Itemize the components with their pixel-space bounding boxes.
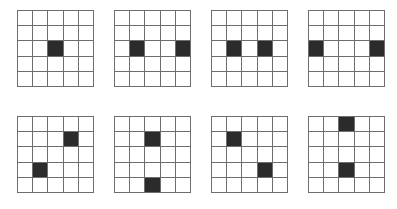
grid-cell-empty — [339, 11, 354, 26]
grid-cell-empty — [242, 72, 257, 87]
grid-2 — [114, 10, 191, 87]
grid-cell-empty — [161, 117, 176, 132]
grid-cell-empty — [212, 57, 227, 72]
grid-cell-empty — [212, 163, 227, 178]
grid-cell-empty — [145, 57, 160, 72]
grid-cell-empty — [309, 178, 324, 193]
grid-cell-empty — [33, 117, 48, 132]
grid-cell-empty — [130, 57, 145, 72]
grid-cell-filled — [64, 132, 79, 147]
grid-cell-empty — [161, 11, 176, 26]
grid-cell-empty — [309, 57, 324, 72]
grid-cell-empty — [273, 163, 288, 178]
grid-cell-empty — [273, 41, 288, 56]
grid-cell-empty — [273, 178, 288, 193]
grid-cell-empty — [48, 117, 63, 132]
grid-cell-filled — [370, 41, 385, 56]
grid-cell-empty — [176, 26, 191, 41]
grid-cell-empty — [79, 132, 94, 147]
grid-cell-empty — [115, 72, 130, 87]
grid-cell-empty — [309, 132, 324, 147]
grid-cell-empty — [130, 147, 145, 162]
grid-cell-empty — [33, 57, 48, 72]
grid-cell-empty — [355, 72, 370, 87]
grid-3 — [211, 10, 288, 87]
grid-cell-filled — [145, 132, 160, 147]
grid-cell-empty — [64, 147, 79, 162]
grid-cell-empty — [355, 147, 370, 162]
grid-cell-empty — [79, 72, 94, 87]
grid-cell-empty — [48, 178, 63, 193]
grid-cell-empty — [370, 163, 385, 178]
grid-cell-empty — [324, 132, 339, 147]
grid-cell-empty — [33, 41, 48, 56]
grid-cell-empty — [309, 26, 324, 41]
grid-cell-empty — [309, 117, 324, 132]
grid-cell-empty — [64, 57, 79, 72]
grid-cell-empty — [242, 11, 257, 26]
grid-cell-empty — [161, 147, 176, 162]
grid-cell-empty — [273, 132, 288, 147]
grid-cell-empty — [370, 147, 385, 162]
grid-cell-empty — [48, 132, 63, 147]
grid-cell-empty — [161, 132, 176, 147]
grid-cell-filled — [227, 132, 242, 147]
grid-cell-empty — [309, 147, 324, 162]
grid-cell-empty — [212, 117, 227, 132]
grid-cell-empty — [161, 57, 176, 72]
grid-cell-empty — [33, 147, 48, 162]
grid-cell-empty — [355, 41, 370, 56]
grid-cell-filled — [258, 41, 273, 56]
grid-cell-empty — [161, 72, 176, 87]
grid-cell-empty — [212, 147, 227, 162]
grid-cell-empty — [258, 132, 273, 147]
grid-cell-empty — [227, 147, 242, 162]
grid-cell-empty — [79, 57, 94, 72]
grid-cell-empty — [242, 41, 257, 56]
grid-cell-filled — [309, 41, 324, 56]
grid-cell-empty — [18, 178, 33, 193]
grid-cell-empty — [115, 163, 130, 178]
grid-cell-empty — [273, 26, 288, 41]
grid-cell-empty — [115, 147, 130, 162]
grid-cell-empty — [355, 26, 370, 41]
grid-cell-filled — [145, 178, 160, 193]
grid-cell-empty — [18, 163, 33, 178]
grid-cell-empty — [130, 163, 145, 178]
grid-cell-empty — [339, 147, 354, 162]
grid-cell-empty — [33, 178, 48, 193]
grid-cell-empty — [258, 117, 273, 132]
grid-cell-empty — [145, 26, 160, 41]
grid-cell-empty — [161, 178, 176, 193]
grid-cell-empty — [64, 178, 79, 193]
grid-cell-filled — [227, 41, 242, 56]
grid-cell-empty — [339, 178, 354, 193]
grid-cell-empty — [227, 72, 242, 87]
grid-cell-empty — [145, 147, 160, 162]
grid-cell-empty — [242, 57, 257, 72]
grid-cell-filled — [339, 163, 354, 178]
grid-cell-empty — [161, 163, 176, 178]
grid-cell-empty — [130, 178, 145, 193]
grid-cell-empty — [79, 178, 94, 193]
grid-cell-empty — [64, 11, 79, 26]
grid-cell-empty — [48, 57, 63, 72]
grid-cell-empty — [18, 72, 33, 87]
grid-cell-empty — [324, 163, 339, 178]
grid-cell-empty — [324, 57, 339, 72]
grid-7 — [211, 116, 288, 193]
grid-cell-empty — [130, 117, 145, 132]
grid-cell-empty — [48, 11, 63, 26]
grid-cell-empty — [227, 117, 242, 132]
grid-cell-empty — [227, 11, 242, 26]
grid-cell-empty — [79, 147, 94, 162]
grid-cell-empty — [370, 132, 385, 147]
grid-cell-empty — [145, 163, 160, 178]
grid-cell-empty — [64, 26, 79, 41]
grid-cell-empty — [309, 72, 324, 87]
grid-cell-empty — [242, 132, 257, 147]
grid-cell-empty — [324, 26, 339, 41]
grid-cell-empty — [355, 117, 370, 132]
grid-cell-empty — [324, 117, 339, 132]
grid-cell-filled — [176, 41, 191, 56]
